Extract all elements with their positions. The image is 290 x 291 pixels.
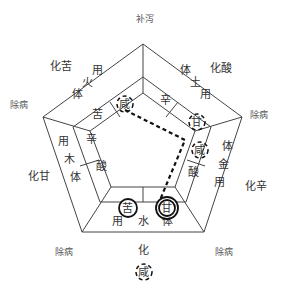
svg-text:甘: 甘 bbox=[161, 202, 172, 215]
svg-text:咸: 咸 bbox=[119, 98, 130, 111]
svg-text:金: 金 bbox=[218, 157, 229, 171]
svg-text:甘: 甘 bbox=[191, 116, 202, 129]
svg-text:水: 水 bbox=[138, 215, 149, 228]
svg-text:用: 用 bbox=[200, 88, 211, 101]
svg-text:体: 体 bbox=[180, 63, 191, 77]
svg-text:用: 用 bbox=[112, 215, 123, 228]
side-label-upper-left: 化苦 bbox=[50, 59, 72, 73]
vertex-label-upper-left: 除病 bbox=[10, 99, 28, 110]
side-label-right: 化辛 bbox=[245, 179, 267, 193]
svg-text:辛: 辛 bbox=[86, 132, 97, 146]
svg-text:酸: 酸 bbox=[188, 165, 199, 179]
svg-text:辛: 辛 bbox=[160, 93, 171, 107]
vertex-label-top: 补泻 bbox=[136, 13, 154, 24]
svg-text:木: 木 bbox=[64, 153, 75, 166]
five-flavors-pentagon-diagram: 补泻 除病 除病 除病 除病 化苦 化酸 化甘 化辛 化 咸 用 火 体 咸 苦… bbox=[0, 0, 290, 291]
svg-text:火: 火 bbox=[82, 76, 93, 89]
svg-text:酸: 酸 bbox=[96, 159, 107, 173]
svg-text:体: 体 bbox=[70, 170, 81, 184]
svg-text:苦: 苦 bbox=[92, 108, 103, 121]
svg-text:体: 体 bbox=[72, 87, 83, 101]
svg-text:用: 用 bbox=[214, 176, 225, 189]
side-label-bottom: 化 bbox=[138, 243, 149, 257]
side-label-bottom-highlight: 咸 bbox=[138, 266, 149, 279]
svg-text:咸: 咸 bbox=[194, 144, 205, 157]
side-label-left: 化甘 bbox=[28, 169, 50, 183]
side-label-upper-right: 化酸 bbox=[210, 61, 232, 75]
svg-text:用: 用 bbox=[58, 135, 69, 148]
svg-text:苦: 苦 bbox=[122, 202, 133, 215]
svg-text:用: 用 bbox=[92, 64, 103, 77]
vertex-label-lower-left: 除病 bbox=[55, 246, 73, 257]
vertex-label-lower-right: 除病 bbox=[215, 246, 233, 257]
svg-text:体: 体 bbox=[222, 139, 233, 153]
vertex-label-upper-right: 除病 bbox=[250, 109, 268, 120]
